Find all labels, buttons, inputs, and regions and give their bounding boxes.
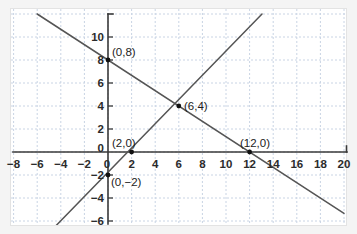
x-tick-label: 0 [104,158,110,170]
coordinate-plane-figure: −8 −6 −4 −2 0 2 4 6 8 10 12 14 16 18 20 … [0,0,357,234]
plotted-lines [37,14,344,227]
y-tick-label: 2 [98,123,104,135]
point-0-neg2 [106,173,111,178]
annotation-label-6-4: (6,4) [184,100,208,112]
y-tick-label: 8 [98,54,105,66]
y-tick-label: 0 [98,142,104,154]
point-2-0 [129,150,134,155]
x-tick-label: 18 [314,158,327,170]
point-12-0 [247,150,252,155]
x-tick-label: −8 [7,158,21,170]
y-tick-label: 10 [91,31,104,43]
x-tick-label: 10 [220,158,233,170]
annotation-label-2-0: (2,0) [112,137,136,149]
x-tick-label: 16 [290,158,303,170]
x-axis-tick-labels: −8 −6 −4 −2 0 2 4 6 8 10 12 14 16 18 20 [7,158,350,170]
grid-lines [11,9,346,225]
y-tick-label: −6 [91,215,104,227]
x-tick-label: 4 [152,158,159,170]
line-descending [37,14,344,213]
y-tick-label: −2 [91,169,104,181]
point-0-8 [106,58,111,63]
annotation-label-0-neg2: (0,−2) [111,176,142,188]
graph-screenshot: −8 −6 −4 −2 0 2 4 6 8 10 12 14 16 18 20 … [0,0,357,234]
x-tick-label: 8 [199,158,206,170]
x-tick-label: 14 [267,158,280,170]
x-tick-label: 6 [176,158,182,170]
x-tick-label: 2 [128,158,134,170]
y-tick-label: −4 [91,192,105,204]
x-tick-label: 12 [243,158,256,170]
x-tick-label: −6 [31,158,44,170]
y-tick-label: 6 [98,77,104,89]
point-6-4 [176,104,181,109]
y-tick-label: 4 [98,100,105,112]
annotation-label-12-0: (12,0) [240,137,270,149]
annotation-label-0-8: (0,8) [112,46,136,58]
x-tick-label: −4 [54,158,68,170]
x-tick-label: 20 [338,158,351,170]
x-tick-label: −2 [78,158,91,170]
